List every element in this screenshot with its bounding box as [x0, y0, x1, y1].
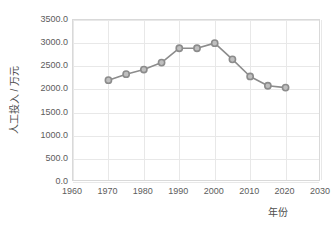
x-axis-tick-label: 2020 — [268, 187, 302, 196]
plot-area — [72, 19, 320, 181]
data-point-marker — [158, 59, 164, 65]
gridline-vertical — [321, 20, 322, 180]
y-axis-tick-label: 500.0 — [24, 154, 68, 163]
x-axis-tick-label: 2030 — [303, 187, 335, 196]
gridline-horizontal — [73, 182, 319, 183]
data-point-marker — [141, 66, 147, 72]
data-point-marker — [229, 56, 235, 62]
x-axis-tick-label: 1960 — [55, 187, 89, 196]
y-axis-tick-label: 3500.0 — [24, 15, 68, 24]
y-axis-tick-label: 2500.0 — [24, 61, 68, 70]
data-point-marker — [123, 71, 129, 77]
x-axis-tick-label: 2000 — [197, 187, 231, 196]
data-point-marker — [105, 77, 111, 83]
data-point-marker — [247, 73, 253, 79]
x-axis-tick-label: 1990 — [161, 187, 195, 196]
y-axis-tick-label: 0.0 — [24, 177, 68, 186]
y-axis-tick-label: 1000.0 — [24, 131, 68, 140]
y-axis-tick-label: 1500.0 — [24, 108, 68, 117]
data-point-marker — [194, 45, 200, 51]
x-axis-title: 年份 — [268, 208, 288, 218]
data-point-marker — [176, 45, 182, 51]
y-axis-tick-label: 2000.0 — [24, 84, 68, 93]
data-point-marker — [212, 40, 218, 46]
data-point-marker — [265, 83, 271, 89]
data-point-marker — [282, 84, 288, 90]
line-series — [73, 20, 321, 182]
x-axis-tick-label: 1970 — [90, 187, 124, 196]
x-axis-tick-label: 1980 — [126, 187, 160, 196]
x-axis-tick-label: 2010 — [232, 187, 266, 196]
y-axis-title: 人工投入 / 万元 — [10, 19, 20, 181]
y-axis-tick-label: 3000.0 — [24, 38, 68, 47]
